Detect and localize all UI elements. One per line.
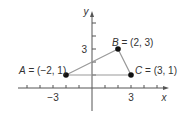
x-tick-label-3: 3 (128, 92, 134, 103)
point-c-coords: = (3, 1) (142, 65, 177, 76)
x-tick-label-neg3: −3 (47, 92, 59, 103)
triangle-abc (66, 49, 131, 75)
x-axis-arrow-icon (163, 86, 169, 90)
point-c-label: C = (3, 1) (135, 65, 177, 76)
point-a-coords: = (−2, 1) (26, 65, 67, 76)
y-ticks (92, 23, 96, 75)
y-axis-label: y (83, 6, 90, 17)
point-c (128, 72, 134, 78)
point-a-label: A = (−2, 1) (18, 65, 66, 76)
x-axis-label: x (161, 92, 168, 103)
coordinate-plane: −3 3 3 x y A = (−2, 1) B = (2, 3) C = (3… (0, 0, 185, 117)
y-axis-arrow-icon (90, 11, 94, 17)
y-tick-label-3: 3 (81, 44, 87, 55)
point-b-label: B = (2, 3) (112, 37, 153, 48)
point-b-coords: = (2, 3) (119, 37, 154, 48)
